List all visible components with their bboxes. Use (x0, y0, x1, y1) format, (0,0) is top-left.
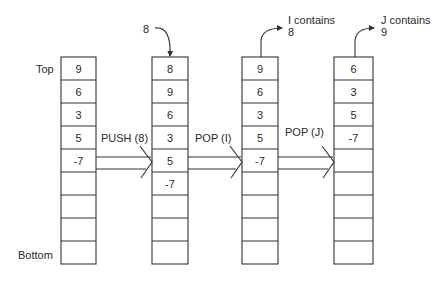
bottom-label: Bottom (18, 249, 53, 261)
stack-cell: -7 (255, 155, 265, 167)
i-value-label: 8 (288, 26, 294, 38)
stack-cell: 5 (350, 109, 356, 121)
pop-i-arrow-icon (261, 28, 282, 57)
stack-after-pop-i: 9 6 3 5 -7 (242, 57, 278, 264)
stack-cell: 3 (257, 109, 263, 121)
pop-j-operation-label: POP (J) (285, 126, 324, 138)
stack-cell: 3 (167, 132, 173, 144)
stack-cell: 9 (167, 86, 173, 98)
stack-cell: 6 (350, 63, 356, 75)
push-value-label: 8 (143, 23, 149, 35)
stack-after-push: 8 9 6 3 5 -7 (152, 57, 188, 264)
pop-i-operation-arrow (188, 146, 242, 178)
j-value-label: 9 (381, 26, 387, 38)
stack-operations-diagram: Top Bottom 9 6 3 5 -7 8 9 6 3 5 -7 8 (0, 0, 446, 283)
stack-cell: -7 (74, 155, 84, 167)
stack-cell: 3 (75, 109, 81, 121)
push-arrow-icon (155, 28, 170, 56)
stack-after-pop-j: 6 3 5 -7 (334, 57, 373, 264)
stack-cell: 3 (350, 86, 356, 98)
stack-cell: 5 (257, 132, 263, 144)
push-operation-label: PUSH (8) (101, 132, 148, 144)
stack-cell: 6 (167, 109, 173, 121)
stack-initial: 9 6 3 5 -7 (61, 57, 96, 264)
i-contains-label: I contains (288, 14, 336, 26)
top-label: Top (36, 63, 54, 75)
pop-i-operation-label: POP (I) (195, 132, 231, 144)
stack-cell: -7 (165, 178, 175, 190)
stack-cell: 6 (75, 86, 81, 98)
push-operation-arrow (96, 146, 152, 178)
stack-cell: 9 (75, 63, 81, 75)
pop-j-arrow-icon (355, 28, 374, 57)
stack-cell: 9 (257, 63, 263, 75)
j-contains-label: J contains (381, 14, 431, 26)
stack-cell: 5 (75, 132, 81, 144)
stack-cell: 5 (167, 155, 173, 167)
stack-cell: 8 (167, 63, 173, 75)
pop-j-operation-arrow (278, 146, 334, 178)
stack-cell: -7 (349, 132, 359, 144)
stack-cell: 6 (257, 86, 263, 98)
